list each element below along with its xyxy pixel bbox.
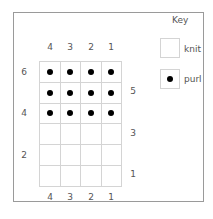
purl-dot-icon (88, 90, 94, 96)
purl-dot-icon (47, 69, 53, 75)
key-knit-label: knit (184, 44, 201, 54)
chart-cell-purl (40, 83, 61, 104)
row-label: 6 (14, 67, 34, 77)
chart-cell-knit (61, 145, 82, 166)
chart-cell-purl (61, 104, 82, 125)
row-label: 2 (14, 150, 34, 160)
col-label: 1 (101, 42, 121, 52)
chart-cell-purl (40, 104, 61, 125)
purl-dot-icon (108, 69, 114, 75)
chart-cell-knit (40, 166, 61, 187)
col-label: 1 (101, 192, 121, 202)
chart-cell-knit (81, 145, 102, 166)
key-knit-symbol (160, 38, 180, 58)
purl-dot-icon (67, 69, 73, 75)
purl-dot-icon (67, 110, 73, 116)
chart-cell-knit (40, 124, 61, 145)
key-purl-label: purl (184, 74, 202, 84)
col-label: 3 (60, 42, 80, 52)
chart-cell-knit (61, 124, 82, 145)
col-label: 2 (81, 192, 101, 202)
col-label: 2 (81, 42, 101, 52)
key-title: Key (172, 15, 188, 25)
key-purl-symbol (160, 69, 180, 89)
purl-dot-icon (108, 90, 114, 96)
row-label: 1 (123, 169, 143, 179)
purl-dot-icon (88, 69, 94, 75)
chart-cell-knit (102, 124, 123, 145)
col-label: 4 (40, 42, 60, 52)
purl-dot-icon (67, 90, 73, 96)
chart-cell-knit (61, 166, 82, 187)
chart-cell-knit (102, 145, 123, 166)
col-label: 3 (60, 192, 80, 202)
purl-dot-icon (47, 110, 53, 116)
chart-cell-purl (102, 104, 123, 125)
purl-dot-icon (47, 90, 53, 96)
purl-dot-icon (88, 110, 94, 116)
chart-cell-purl (81, 62, 102, 83)
chart-cell-knit (102, 166, 123, 187)
col-label: 4 (40, 192, 60, 202)
chart-cell-purl (102, 83, 123, 104)
chart-cell-knit (81, 166, 102, 187)
chart-cell-purl (102, 62, 123, 83)
chart-cell-purl (81, 104, 102, 125)
row-label: 3 (123, 128, 143, 138)
chart-cell-purl (81, 83, 102, 104)
chart-cell-knit (40, 145, 61, 166)
chart-cell-purl (61, 83, 82, 104)
purl-dot-icon (167, 76, 173, 82)
chart-cell-purl (61, 62, 82, 83)
row-label: 4 (14, 108, 34, 118)
row-label: 5 (123, 86, 143, 96)
chart-cell-purl (40, 62, 61, 83)
chart-cell-knit (81, 124, 102, 145)
purl-dot-icon (108, 110, 114, 116)
knitting-chart-grid (39, 61, 122, 187)
